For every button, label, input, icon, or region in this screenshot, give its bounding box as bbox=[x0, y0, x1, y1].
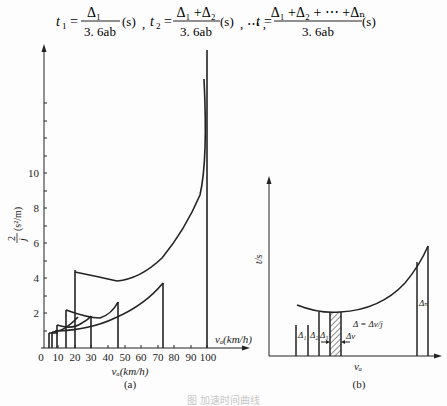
y-tick: 10 bbox=[28, 167, 40, 179]
x-tick: 90 bbox=[186, 351, 198, 363]
figure-caption: 图 加速时间曲线 bbox=[0, 392, 447, 406]
panel-b-label: (b) bbox=[353, 378, 366, 391]
x-tick: 60 bbox=[136, 351, 148, 363]
x-label-right: vₐ(km/h) bbox=[215, 333, 252, 346]
panel-a-label: (a) bbox=[124, 378, 137, 391]
annotation-delta-1: Δ₁ bbox=[297, 330, 306, 340]
chart-b-x-label: vₐ bbox=[354, 360, 362, 372]
x-tick: 20 bbox=[70, 351, 82, 363]
chart-b-y-label: t/s bbox=[253, 254, 264, 264]
y-label-unit: (s²/m) bbox=[12, 207, 24, 231]
chart-a: 0 10 20 30 40 50 60 70 80 90 100 2 4 6 8… bbox=[0, 0, 447, 406]
x-tick: 80 bbox=[169, 351, 181, 363]
chart-a-x-arrow-icon bbox=[242, 346, 250, 351]
x-tick: 0 bbox=[38, 351, 44, 363]
annotation-delta-n: Δₙ bbox=[418, 298, 428, 308]
y-label-num: 2 bbox=[6, 236, 17, 241]
annotation-delta-formula: Δ = Δv/j bbox=[352, 319, 383, 329]
x-tick: 40 bbox=[103, 351, 115, 363]
chart-b-y-arrow-icon bbox=[267, 176, 272, 184]
y-tick: 6 bbox=[34, 237, 40, 249]
annotation-delta-3: Δ₃ bbox=[319, 330, 328, 340]
annotation-delta-2: Δ₂ bbox=[309, 330, 318, 340]
x-tick: 50 bbox=[120, 351, 132, 363]
chart-a-y-arrow-icon bbox=[42, 44, 47, 52]
x-tick: 70 bbox=[153, 351, 165, 363]
x-tick: 30 bbox=[86, 351, 98, 363]
x-label: vₐ(km/h) bbox=[112, 365, 149, 378]
chart-b-x-arrow-icon bbox=[434, 354, 442, 359]
y-tick: 4 bbox=[34, 272, 40, 284]
x-tick: 10 bbox=[53, 351, 65, 363]
y-tick: 8 bbox=[34, 202, 40, 214]
y-tick: 2 bbox=[34, 307, 40, 319]
annotation-delta-v: Δv bbox=[345, 331, 355, 341]
x-tick: 100 bbox=[200, 351, 217, 363]
y-label-den: j bbox=[17, 238, 28, 243]
